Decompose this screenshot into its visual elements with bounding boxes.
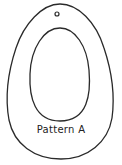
pattern-label: Pattern A [0,124,122,135]
pattern-drawing [0,0,122,165]
inner-oval-cutout [30,28,90,121]
pattern-canvas: Pattern A [0,0,122,165]
hanging-hole-icon [55,12,59,16]
outer-teardrop-outline [7,4,113,159]
